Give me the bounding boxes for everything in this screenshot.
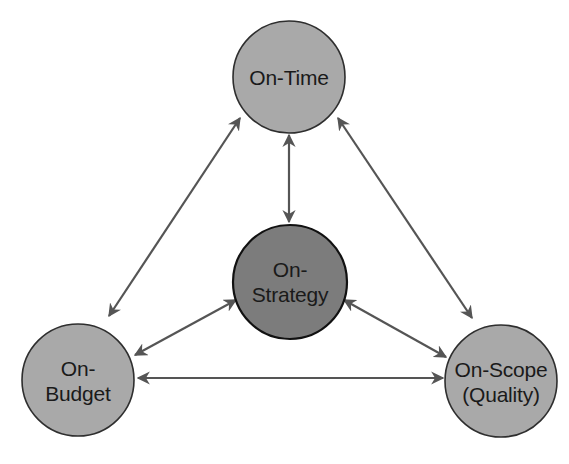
node-on-strategy-circle	[233, 225, 347, 339]
node-on-time-circle	[233, 21, 345, 133]
edge-time-budget	[109, 118, 240, 316]
edge-time-scope	[338, 118, 472, 318]
node-on-scope-circle	[445, 325, 557, 437]
edge-strategy-budget	[135, 300, 236, 355]
diagram-canvas	[0, 0, 569, 464]
node-on-budget-circle	[22, 324, 134, 436]
edge-strategy-scope	[344, 300, 446, 357]
